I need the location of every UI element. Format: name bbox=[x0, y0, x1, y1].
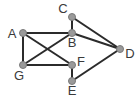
node-label-b: B bbox=[68, 35, 77, 50]
node-label-e: E bbox=[68, 83, 77, 98]
node-label-d: D bbox=[125, 46, 134, 61]
graph-diagram: ABCDEFG bbox=[0, 0, 140, 109]
node-f bbox=[69, 62, 76, 69]
node-d bbox=[117, 46, 124, 53]
node-label-a: A bbox=[8, 26, 17, 41]
node-label-g: G bbox=[14, 68, 24, 83]
edge-c-d bbox=[72, 17, 120, 49]
node-label-c: C bbox=[58, 1, 67, 16]
node-a bbox=[20, 30, 27, 37]
node-label-f: F bbox=[77, 54, 85, 69]
edge-b-d bbox=[72, 33, 120, 49]
node-c bbox=[69, 14, 76, 21]
